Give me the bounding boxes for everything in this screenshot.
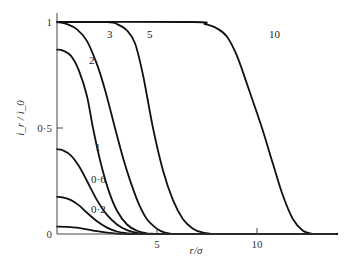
line-chart: 0·20·6123510 51000·51 r/σ i_r / i_0 xyxy=(0,0,353,267)
x-tick-label: 10 xyxy=(252,238,264,250)
curve-label: 3 xyxy=(107,28,113,40)
curve-label: 5 xyxy=(147,28,153,40)
curve-labels: 0·20·6123510 xyxy=(89,28,281,215)
x-axis-title: r/σ xyxy=(190,244,203,256)
curve-label: 0·6 xyxy=(91,173,106,185)
y-tick-label: 0·5 xyxy=(37,122,52,134)
curve-label: 1 xyxy=(95,141,101,153)
y-axis-title: i_r / i_0 xyxy=(14,100,26,136)
curve-label: 10 xyxy=(269,28,281,40)
y-tick-label: 0 xyxy=(47,228,53,240)
axis-ticks: 51000·51 xyxy=(37,16,263,250)
curve-label: 0·2 xyxy=(91,203,106,215)
y-tick-label: 1 xyxy=(47,16,53,28)
curve-label: 2 xyxy=(89,54,95,66)
x-tick-label: 5 xyxy=(154,238,160,250)
